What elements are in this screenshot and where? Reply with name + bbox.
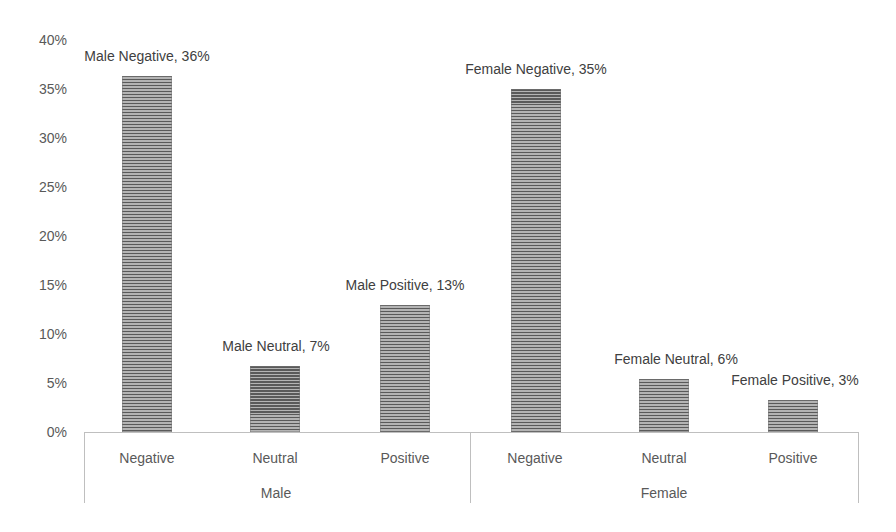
data-label: Male Positive, 13% — [345, 277, 464, 293]
x-category-label: Positive — [380, 450, 429, 466]
bar-female-negative — [511, 89, 561, 432]
x-category-label: Positive — [768, 450, 817, 466]
x-group-label: Female — [641, 485, 688, 501]
bar-female-neutral — [639, 379, 689, 432]
x-category-label: Neutral — [252, 450, 297, 466]
x-axis-divider — [470, 432, 471, 503]
y-tick-label: 35% — [0, 81, 67, 97]
data-label: Female Neutral, 6% — [614, 351, 738, 367]
bar-male-positive — [380, 305, 430, 432]
x-axis-line — [84, 432, 859, 433]
bar-chart: 0% 5% 10% 15% 20% 25% 30% 35% 40% Male N… — [0, 0, 896, 532]
y-tick-label: 40% — [0, 32, 67, 48]
data-label: Male Neutral, 7% — [222, 338, 329, 354]
y-tick-label: 25% — [0, 179, 67, 195]
bar-male-negative — [122, 76, 172, 432]
y-tick-label: 30% — [0, 130, 67, 146]
y-tick-label: 0% — [0, 424, 67, 440]
x-category-label: Neutral — [641, 450, 686, 466]
y-tick-label: 5% — [0, 375, 67, 391]
x-category-label: Negative — [507, 450, 562, 466]
x-axis-divider — [858, 432, 859, 503]
data-label: Female Positive, 3% — [731, 372, 859, 388]
x-group-label: Male — [261, 485, 291, 501]
bar-male-neutral — [250, 366, 300, 432]
x-axis-divider — [84, 432, 85, 503]
y-tick-label: 20% — [0, 228, 67, 244]
data-label: Female Negative, 35% — [465, 61, 607, 77]
bar-female-positive — [768, 400, 818, 432]
x-category-label: Negative — [119, 450, 174, 466]
data-label: Male Negative, 36% — [84, 48, 209, 64]
y-tick-label: 10% — [0, 326, 67, 342]
y-tick-label: 15% — [0, 277, 67, 293]
